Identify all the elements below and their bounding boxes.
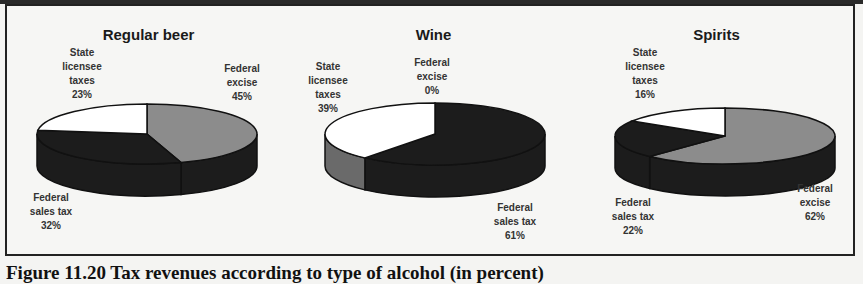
pie-slice-state-licensee-taxes — [38, 104, 147, 134]
label-federal-sales-tax: Federalsales tax61% — [485, 201, 545, 243]
pie-chart-wine: Wine Statelicenseetaxes39% Federalexcise… — [292, 6, 575, 256]
label-state-licensee-taxes: Statelicenseetaxes16% — [615, 46, 675, 102]
figure-caption: Figure 11.20 Tax revenues according to t… — [6, 262, 544, 284]
label-federal-excise: Federalexcise45% — [212, 62, 272, 104]
pie-chart-regular-beer: Regular beer Statelicenseetaxes23% Feder… — [7, 6, 290, 256]
label-state-licensee-taxes: Statelicenseetaxes23% — [47, 46, 117, 102]
label-federal-excise: Federalexcise0% — [402, 56, 462, 98]
figure-frame: Regular beer Statelicenseetaxes23% Feder… — [5, 4, 855, 256]
label-federal-excise: Federalexcise62% — [785, 182, 845, 224]
pie-chart-spirits: Spirits Statelicenseetaxes16% Federalexc… — [575, 6, 858, 256]
label-federal-sales-tax: Federalsales tax32% — [21, 191, 81, 233]
label-state-licensee-taxes: Statelicenseetaxes39% — [302, 60, 354, 116]
label-federal-sales-tax: Federalsales tax22% — [603, 196, 663, 238]
